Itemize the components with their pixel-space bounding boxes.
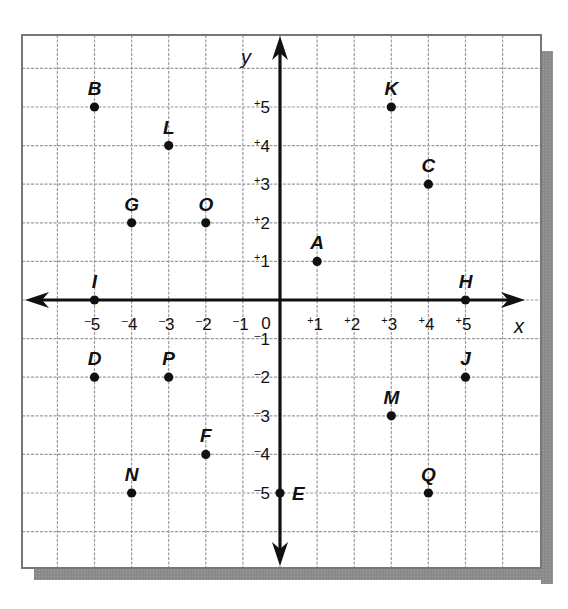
tick-value: 3 (261, 175, 270, 194)
point-label: M (383, 387, 400, 408)
point-marker-icon (387, 411, 396, 420)
point-label: H (459, 271, 474, 292)
point-marker-icon (127, 488, 136, 497)
point-marker-icon (90, 102, 99, 111)
tick-value: 5 (462, 315, 471, 334)
y-axis-name: y (239, 46, 252, 68)
point-label: C (422, 155, 436, 176)
tick-value: 2 (261, 368, 270, 387)
tick-value: 1 (239, 315, 248, 334)
tick-value: 3 (388, 315, 397, 334)
tick-value: 2 (261, 214, 270, 233)
point-label: F (200, 425, 213, 446)
tick-value: 4 (261, 137, 270, 156)
point-label: I (92, 271, 98, 292)
tick-value: 5 (91, 315, 100, 334)
point-label: K (384, 78, 399, 99)
point-label: Q (421, 464, 436, 485)
coordinate-plane: –5–4–3–2–10+1+2+3+4+5+5+4+3+2+1–1–2–3–4–… (0, 0, 568, 609)
tick-value: 1 (261, 330, 270, 349)
point-marker-icon (164, 141, 173, 150)
point-marker-icon (461, 295, 470, 304)
tick-value: 5 (261, 484, 270, 503)
point-label: D (88, 348, 102, 369)
point-label: B (88, 78, 102, 99)
point-j: J (460, 348, 471, 382)
point-marker-icon (424, 488, 433, 497)
point-label: J (460, 348, 471, 369)
point-marker-icon (461, 373, 470, 382)
shadow-right (541, 51, 553, 584)
point-label: L (163, 117, 175, 138)
tick-value: 4 (425, 315, 434, 334)
point-marker-icon (424, 180, 433, 189)
x-axis-name: x (513, 315, 525, 337)
point-marker-icon (313, 257, 322, 266)
tick-value: 4 (128, 315, 137, 334)
point-label: O (198, 194, 213, 215)
point-marker-icon (201, 450, 210, 459)
point-label: P (162, 348, 175, 369)
point-label: N (125, 464, 140, 485)
point-marker-icon (164, 373, 173, 382)
point-marker-icon (90, 295, 99, 304)
point-label: A (309, 232, 324, 253)
point-marker-icon (387, 102, 396, 111)
tick-value: 3 (261, 407, 270, 426)
tick-value: 1 (261, 252, 270, 271)
point-marker-icon (127, 218, 136, 227)
tick-value: 5 (261, 98, 270, 117)
tick-value: 2 (351, 315, 360, 334)
point-label: G (124, 194, 139, 215)
tick-value: 3 (165, 315, 174, 334)
point-l: L (163, 117, 175, 151)
point-label: E (292, 483, 306, 504)
tick-value: 2 (202, 315, 211, 334)
point-marker-icon (275, 488, 284, 497)
tick-value: 1 (314, 315, 323, 334)
shadow-bottom (34, 568, 553, 580)
tick-value: 4 (261, 445, 270, 464)
point-marker-icon (201, 218, 210, 227)
point-marker-icon (90, 373, 99, 382)
